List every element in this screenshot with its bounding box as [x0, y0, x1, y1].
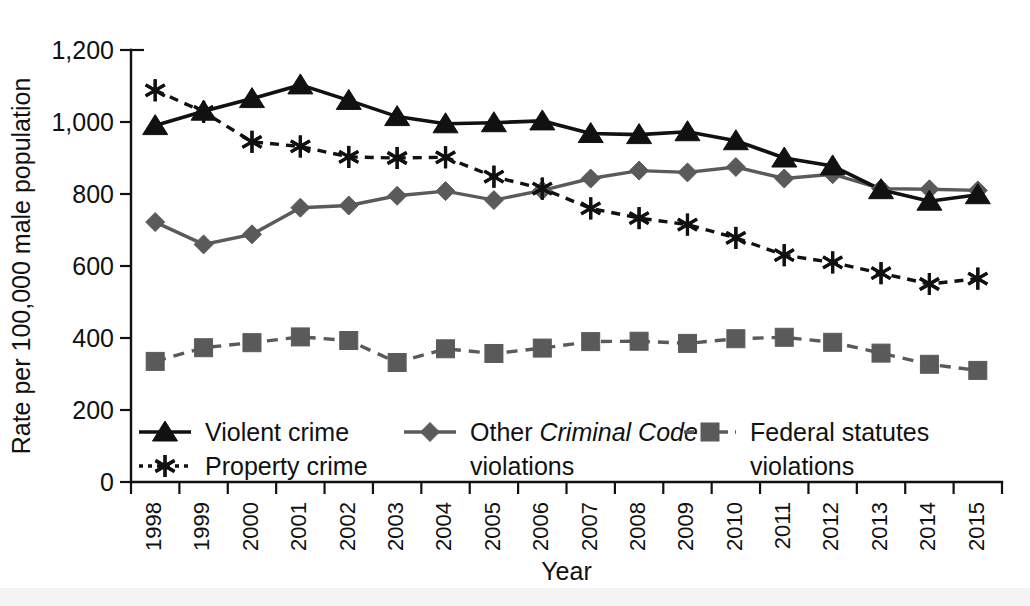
data-point: [242, 225, 261, 244]
data-point: [388, 186, 407, 205]
y-tick-label: 1,000: [51, 108, 114, 136]
x-tick-label: 2003: [383, 502, 408, 551]
data-point: [823, 251, 842, 273]
x-tick-label: 2000: [238, 502, 263, 551]
line-chart-canvas: 02004006008001,0001,20019981999200020012…: [0, 0, 1030, 606]
x-tick-label: 2006: [528, 502, 553, 551]
x-tick-label: 2002: [335, 502, 360, 551]
legend-label-federal-statutes: Federal statutes: [750, 418, 929, 446]
y-tick-label: 400: [72, 324, 114, 352]
y-tick-label: 600: [72, 252, 114, 280]
x-tick-label: 2008: [625, 502, 650, 551]
data-point: [965, 184, 990, 204]
data-point: [436, 146, 455, 168]
data-point: [485, 344, 503, 362]
series-markers-property-crime: [146, 79, 988, 295]
legend-item-other-criminal-code-violations[interactable]: Other Criminal Codeviolations: [404, 418, 698, 480]
data-point: [582, 333, 600, 351]
data-point: [194, 235, 213, 254]
legend-text-italic-part: Criminal Code: [539, 418, 697, 446]
data-point: [630, 161, 649, 180]
x-tick-label: 2013: [867, 502, 892, 551]
series-line-federal-statutes-violations: [155, 337, 978, 371]
data-point: [146, 352, 164, 370]
data-point: [533, 339, 551, 357]
x-tick-label: 2004: [431, 502, 456, 551]
x-axis-title: Year: [541, 557, 592, 585]
data-point: [824, 333, 842, 351]
data-point: [727, 330, 745, 348]
data-point: [920, 355, 938, 373]
y-tick-label: 800: [72, 180, 114, 208]
data-point: [775, 169, 794, 188]
series-markers-other-criminal-code-violations: [146, 158, 988, 254]
data-point: [678, 334, 696, 352]
x-tick-label: 2005: [480, 502, 505, 551]
legend-text-part: Other: [470, 418, 539, 446]
data-point: [726, 227, 745, 249]
data-point: [772, 147, 797, 167]
legend-sample-marker: [701, 423, 719, 441]
y-axis-title: Rate per 100,000 male population: [7, 78, 35, 455]
x-tick-label: 1998: [141, 502, 166, 551]
data-point: [146, 213, 165, 232]
legend-item-violent-crime[interactable]: Violent crime: [139, 418, 349, 446]
data-point: [775, 328, 793, 346]
chart-figure: 02004006008001,0001,20019981999200020012…: [0, 0, 1030, 606]
data-point: [678, 163, 697, 182]
x-tick-label: 1999: [189, 502, 214, 551]
chart-legend: Violent crimeProperty crimeOther Crimina…: [139, 418, 929, 480]
data-point: [388, 353, 406, 371]
data-point: [484, 166, 503, 188]
y-tick-label: 1,200: [51, 36, 114, 64]
legend-label-property-crime: Property crime: [205, 452, 368, 480]
x-tick-label: 2014: [915, 502, 940, 551]
data-point: [385, 106, 410, 126]
legend-label-violent-crime: Violent crime: [205, 418, 349, 446]
legend-label-federal-statutes-line2: violations: [750, 452, 854, 480]
legend-label-other-criminal-code: Other Criminal Code: [470, 418, 698, 446]
data-point: [291, 198, 310, 217]
data-point: [195, 339, 213, 357]
data-point: [872, 262, 891, 284]
data-point: [291, 328, 309, 346]
legend-item-property-crime[interactable]: Property crime: [139, 452, 368, 480]
data-point: [243, 334, 261, 352]
data-point: [484, 191, 503, 210]
data-point: [437, 340, 455, 358]
series-markers-federal-statutes-violations: [146, 328, 987, 379]
data-point: [340, 332, 358, 350]
x-tick-label: 2015: [964, 502, 989, 551]
data-point: [969, 361, 987, 379]
page-edge-artifact: [0, 588, 1030, 606]
legend-item-federal-statutes-violations[interactable]: Federal statutesviolations: [684, 418, 929, 480]
legend-sample-marker: [421, 423, 440, 442]
series-property-crime: [155, 90, 978, 284]
data-point: [436, 182, 455, 201]
data-point: [775, 244, 794, 266]
x-tick-label: 2011: [770, 502, 795, 549]
data-point: [872, 344, 890, 362]
x-tick-label: 2001: [286, 502, 311, 551]
data-point: [581, 169, 600, 188]
data-point: [146, 79, 165, 101]
y-tick-label: 200: [72, 396, 114, 424]
series-line-property-crime: [155, 90, 978, 284]
data-point: [630, 332, 648, 350]
x-tick-label: 2010: [722, 502, 747, 551]
data-point: [339, 196, 358, 215]
data-point: [288, 74, 313, 94]
data-point: [726, 158, 745, 177]
series-federal-statutes-violations: [155, 337, 978, 371]
y-tick-label: 0: [100, 468, 114, 496]
x-tick-label: 2009: [673, 502, 698, 551]
x-tick-label: 2012: [818, 502, 843, 551]
x-tick-label: 2007: [577, 502, 602, 551]
legend-label-other-criminal-code-line2: violations: [470, 452, 574, 480]
